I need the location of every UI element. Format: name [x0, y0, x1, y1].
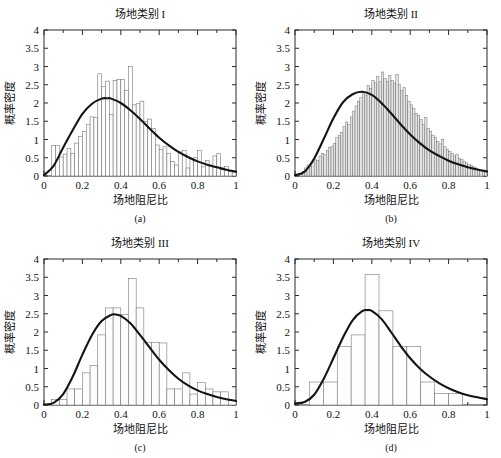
histogram-bar [403, 88, 405, 176]
x-tick-label-d: 0.4 [365, 408, 379, 420]
x-axis-label-b: 场地阻尼比 [364, 193, 419, 206]
chart-title-a: 场地类别 I [115, 7, 166, 20]
histogram-bar [449, 393, 463, 405]
y-tick-label-b: 3 [285, 61, 291, 73]
x-axis-label-a: 场地阻尼比 [113, 193, 168, 206]
histogram-bar [329, 148, 331, 176]
histogram-bar [437, 141, 439, 176]
histogram-bar [420, 119, 422, 176]
histogram-bar [379, 82, 381, 176]
histogram-bar [444, 147, 446, 176]
histogram-bar [317, 161, 319, 176]
x-tick-label-c: 0.8 [191, 408, 205, 420]
histogram-bar [413, 108, 415, 176]
x-tick-label-c: 1 [233, 408, 239, 420]
y-tick-label-a: 0.5 [25, 152, 39, 164]
x-tick-label-d: 0 [292, 408, 298, 420]
histogram-bar [386, 81, 388, 176]
histogram-bar [357, 101, 359, 176]
chart-panel-b: 场地类别 II00.511.522.533.5400.20.40.60.81场地… [251, 0, 501, 229]
histogram-bar [369, 88, 371, 176]
y-tick-label-c: 1 [34, 363, 40, 375]
histogram-bar [86, 124, 90, 176]
histogram-bar [113, 80, 117, 176]
chart-title-b: 场地类别 II [364, 7, 418, 20]
x-tick-label-d: 1 [484, 408, 490, 420]
histogram-bar [136, 308, 144, 405]
histogram-bar [435, 393, 449, 405]
histogram-bar [67, 389, 75, 405]
x-tick-label-c: 0.2 [76, 408, 90, 420]
histogram-bar [90, 366, 98, 405]
histogram-bar [338, 135, 340, 176]
y-tick-label-a: 1.5 [25, 115, 39, 127]
histogram-bar [109, 115, 113, 176]
histogram-bar [201, 167, 205, 176]
chart-panel-a: 场地类别 I00.511.522.533.5400.20.40.60.81场地阻… [0, 0, 250, 229]
histogram-bar [59, 157, 63, 176]
histogram-bar [458, 158, 460, 176]
histogram-bar [393, 83, 395, 176]
y-tick-label-d: 3 [285, 290, 291, 302]
y-tick-label-c: 4 [34, 253, 40, 265]
histogram-bar [377, 77, 379, 176]
x-tick-label-b: 0.8 [442, 179, 456, 191]
y-tick-label-b: 2 [285, 97, 291, 109]
histogram-bar [98, 74, 102, 176]
y-tick-label-d: 3.5 [276, 271, 290, 283]
histogram-bar [67, 149, 71, 176]
panel-caption-a: (a) [134, 213, 145, 225]
histogram-bar [365, 275, 379, 405]
histogram-bar [319, 156, 321, 176]
y-tick-label-a: 3.5 [25, 42, 39, 54]
x-axis-label-d: 场地阻尼比 [364, 422, 419, 435]
histogram-bar [79, 137, 83, 176]
histogram-bar [461, 160, 463, 176]
histogram-bar [182, 373, 190, 405]
histogram-bar [396, 75, 398, 176]
histogram-bar [117, 79, 121, 176]
histogram-bar [82, 373, 90, 405]
histogram-bar [393, 347, 407, 405]
histogram-bar [178, 152, 182, 176]
x-tick-label-c: 0 [41, 408, 47, 420]
histogram-bar [389, 76, 391, 176]
histogram-bar [362, 93, 364, 176]
histogram-bar [401, 90, 403, 176]
histogram-bar [205, 389, 213, 405]
histogram-bar [102, 87, 106, 176]
x-tick-label-a: 0.4 [114, 179, 128, 191]
y-axis-label-c: 概率密度 [3, 310, 16, 354]
histogram-bar [217, 153, 221, 176]
histogram-bar [175, 165, 179, 176]
figure-bottom-note [28, 449, 474, 458]
figure-container: 场地类别 I00.511.522.533.5400.20.40.60.81场地阻… [0, 0, 501, 458]
histogram-bar [98, 335, 106, 405]
y-tick-label-d: 2.5 [276, 308, 290, 320]
histogram-bar [321, 153, 323, 176]
histogram-bar [171, 161, 175, 176]
x-tick-label-b: 1 [484, 179, 490, 191]
chart-title-d: 场地类别 IV [362, 236, 420, 249]
histogram-bar [113, 308, 121, 405]
y-tick-label-d: 1 [285, 363, 291, 375]
histogram-bar [52, 146, 56, 176]
histogram-bar [398, 85, 400, 176]
histogram-bar [144, 342, 152, 405]
histogram-bar [355, 106, 357, 176]
histogram-bar [121, 79, 125, 176]
histogram-bar [341, 132, 343, 176]
histogram-bar [224, 167, 228, 176]
histogram-bar [468, 164, 470, 176]
y-tick-label-d: 4 [285, 253, 291, 265]
histogram-bar [381, 72, 383, 176]
histogram-bar [367, 85, 369, 176]
y-tick-label-a: 2 [34, 97, 40, 109]
y-tick-label-c: 1.5 [25, 344, 39, 356]
chart-title-c: 场地类别 III [111, 236, 169, 249]
histogram-bar [415, 113, 417, 176]
y-tick-label-c: 0 [34, 399, 40, 411]
panel-caption-b: (b) [385, 213, 397, 225]
x-tick-label-a: 0.6 [152, 179, 166, 191]
histogram-bar [175, 389, 183, 405]
